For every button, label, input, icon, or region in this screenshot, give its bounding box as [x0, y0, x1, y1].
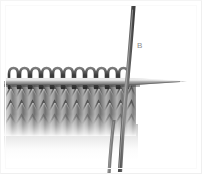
callout-label-b: B	[137, 41, 143, 50]
figure-stage: B	[0, 0, 202, 174]
knitting-figure: B	[0, 0, 202, 174]
diagonal-needle	[96, 6, 144, 172]
